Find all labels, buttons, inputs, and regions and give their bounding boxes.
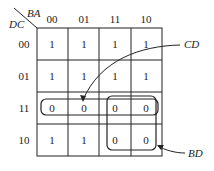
cell: 1	[49, 70, 55, 82]
cell: 1	[81, 38, 87, 50]
col-header: 00	[47, 13, 59, 25]
cell: 1	[49, 134, 55, 146]
cell: 1	[112, 70, 118, 82]
cell: 0	[143, 102, 149, 114]
cell: 1	[143, 38, 149, 50]
cell: 0	[112, 134, 118, 146]
row-header: 01	[19, 70, 30, 82]
bd-arrowhead	[157, 145, 164, 150]
cell: 0	[49, 102, 55, 114]
cell: 1	[143, 70, 149, 82]
cell: 0	[81, 102, 87, 114]
cell: 0	[112, 102, 118, 114]
row-header: 11	[19, 102, 30, 114]
cell: 1	[49, 38, 55, 50]
cell: 1	[81, 70, 87, 82]
col-header: 10	[141, 13, 153, 25]
row-header: 10	[19, 134, 31, 146]
col-variable-label: BA	[27, 7, 41, 19]
row-header: 00	[19, 38, 31, 50]
cell: 1	[81, 134, 87, 146]
karnaugh-map: BA DC 00 01 11 10 00 01 11 10 1 1 1 1 1 …	[0, 0, 214, 171]
cell: 1	[112, 38, 118, 50]
cell: 0	[143, 134, 149, 146]
cd-label: CD	[184, 38, 199, 50]
bd-label: BD	[188, 147, 203, 159]
col-header: 11	[110, 13, 121, 25]
row-variable-label: DC	[8, 18, 25, 30]
col-header: 01	[79, 13, 90, 25]
